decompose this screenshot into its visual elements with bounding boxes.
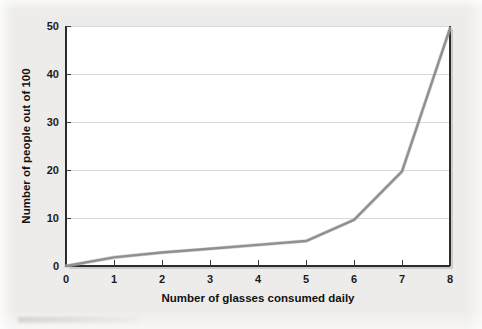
x-tick-label-4: 4 xyxy=(255,273,262,285)
chart-figure: 0 10 20 30 40 50 0 1 2 3 4 5 6 7 8 Numbe… xyxy=(0,0,482,329)
x-axis-tick-labels: 0 1 2 3 4 5 6 7 8 xyxy=(63,273,453,285)
x-tick-label-5: 5 xyxy=(303,273,309,285)
x-tick-label-7: 7 xyxy=(399,273,405,285)
y-axis-tick-labels: 0 10 20 30 40 50 xyxy=(47,20,59,272)
x-axis-title: Number of glasses consumed daily xyxy=(161,292,355,304)
y-tick-label-0: 0 xyxy=(53,260,59,272)
line-chart: 0 10 20 30 40 50 0 1 2 3 4 5 6 7 8 Numbe… xyxy=(0,0,482,329)
y-tick-label-30: 30 xyxy=(47,116,59,128)
y-tick-label-20: 20 xyxy=(47,164,59,176)
y-tick-label-10: 10 xyxy=(47,212,59,224)
y-tick-label-40: 40 xyxy=(47,68,59,80)
x-tick-label-2: 2 xyxy=(159,273,165,285)
x-tick-label-3: 3 xyxy=(207,273,213,285)
x-tick-label-0: 0 xyxy=(63,273,69,285)
plot-area xyxy=(66,26,450,266)
x-tick-label-6: 6 xyxy=(351,273,357,285)
x-tick-label-1: 1 xyxy=(111,273,117,285)
x-tick-label-8: 8 xyxy=(447,273,453,285)
y-tick-label-50: 50 xyxy=(47,20,59,32)
y-axis-title: Number of people out of 100 xyxy=(20,68,32,223)
